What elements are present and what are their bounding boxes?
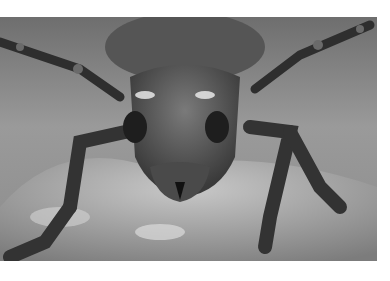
beetle-photo: [0, 17, 377, 261]
beetle-illustration: [0, 17, 377, 261]
left-eye: [123, 111, 147, 143]
right-eye: [205, 111, 229, 143]
